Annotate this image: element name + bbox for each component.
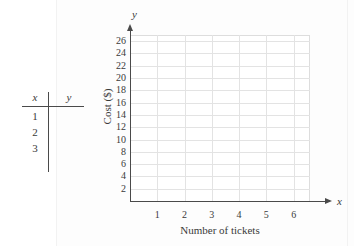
table-header-x: x bbox=[26, 90, 44, 104]
table-column-divider bbox=[48, 92, 49, 172]
x-axis-line bbox=[130, 201, 326, 202]
y-axis-arrow-icon bbox=[127, 24, 133, 31]
paper-right-edge bbox=[347, 0, 348, 246]
table-x-column: 1 2 3 bbox=[26, 108, 44, 156]
table-y-column[interactable] bbox=[60, 108, 78, 156]
y-axis-title: Cost ($) bbox=[101, 72, 114, 142]
y-tick-label: 24 bbox=[104, 48, 126, 58]
x-axis-variable-label: x bbox=[337, 195, 342, 207]
gridline-horizontal bbox=[130, 41, 310, 42]
y-tick-label: 26 bbox=[104, 36, 126, 46]
x-tick-label: 3 bbox=[202, 209, 222, 220]
x-axis-title: Number of tickets bbox=[130, 224, 310, 237]
gridline-horizontal bbox=[130, 140, 310, 141]
y-tick-label: 6 bbox=[104, 159, 126, 169]
table-row: 2 bbox=[26, 124, 44, 140]
y-axis-line bbox=[130, 30, 131, 202]
gridline-horizontal bbox=[130, 90, 310, 91]
x-tick-label: 1 bbox=[147, 209, 167, 220]
gridline-horizontal bbox=[130, 164, 310, 165]
y-tick-label: 2 bbox=[104, 184, 126, 194]
y-tick-label: 4 bbox=[104, 171, 126, 181]
table-y-cell-blank[interactable] bbox=[60, 108, 78, 124]
y-tick-label: 22 bbox=[104, 61, 126, 71]
y-tick-label: 8 bbox=[104, 147, 126, 157]
x-tick-label: 5 bbox=[256, 209, 276, 220]
table-header-row: x y bbox=[22, 90, 86, 106]
gridline-horizontal bbox=[130, 103, 310, 104]
table-row: 3 bbox=[26, 140, 44, 156]
table-y-cell-blank[interactable] bbox=[60, 140, 78, 156]
coordinate-grid-chart: y x 2468101214161820222426 123456 Number… bbox=[96, 8, 346, 240]
gridline-horizontal bbox=[130, 152, 310, 153]
x-tick-label: 4 bbox=[229, 209, 249, 220]
y-axis-variable-label: y bbox=[132, 8, 137, 20]
x-tick-label: 6 bbox=[284, 209, 304, 220]
worksheet-figure: x y 1 2 3 y x 2468101214161820222426 123… bbox=[0, 0, 354, 246]
plot-area[interactable] bbox=[130, 35, 310, 201]
gridline-horizontal bbox=[130, 78, 310, 79]
gridline-horizontal bbox=[130, 53, 310, 54]
table-row: 1 bbox=[26, 108, 44, 124]
table-header-rule bbox=[22, 106, 84, 107]
gridline-horizontal bbox=[130, 189, 310, 190]
x-tick-label: 2 bbox=[175, 209, 195, 220]
x-axis-arrow-icon bbox=[325, 198, 332, 204]
gridline-horizontal bbox=[130, 115, 310, 116]
table-y-cell-blank[interactable] bbox=[60, 124, 78, 140]
table-header-y: y bbox=[60, 90, 78, 104]
gridline-horizontal bbox=[130, 127, 310, 128]
gridline-horizontal bbox=[130, 66, 310, 67]
gridline-horizontal bbox=[130, 176, 310, 177]
input-output-table: x y 1 2 3 bbox=[22, 90, 86, 175]
